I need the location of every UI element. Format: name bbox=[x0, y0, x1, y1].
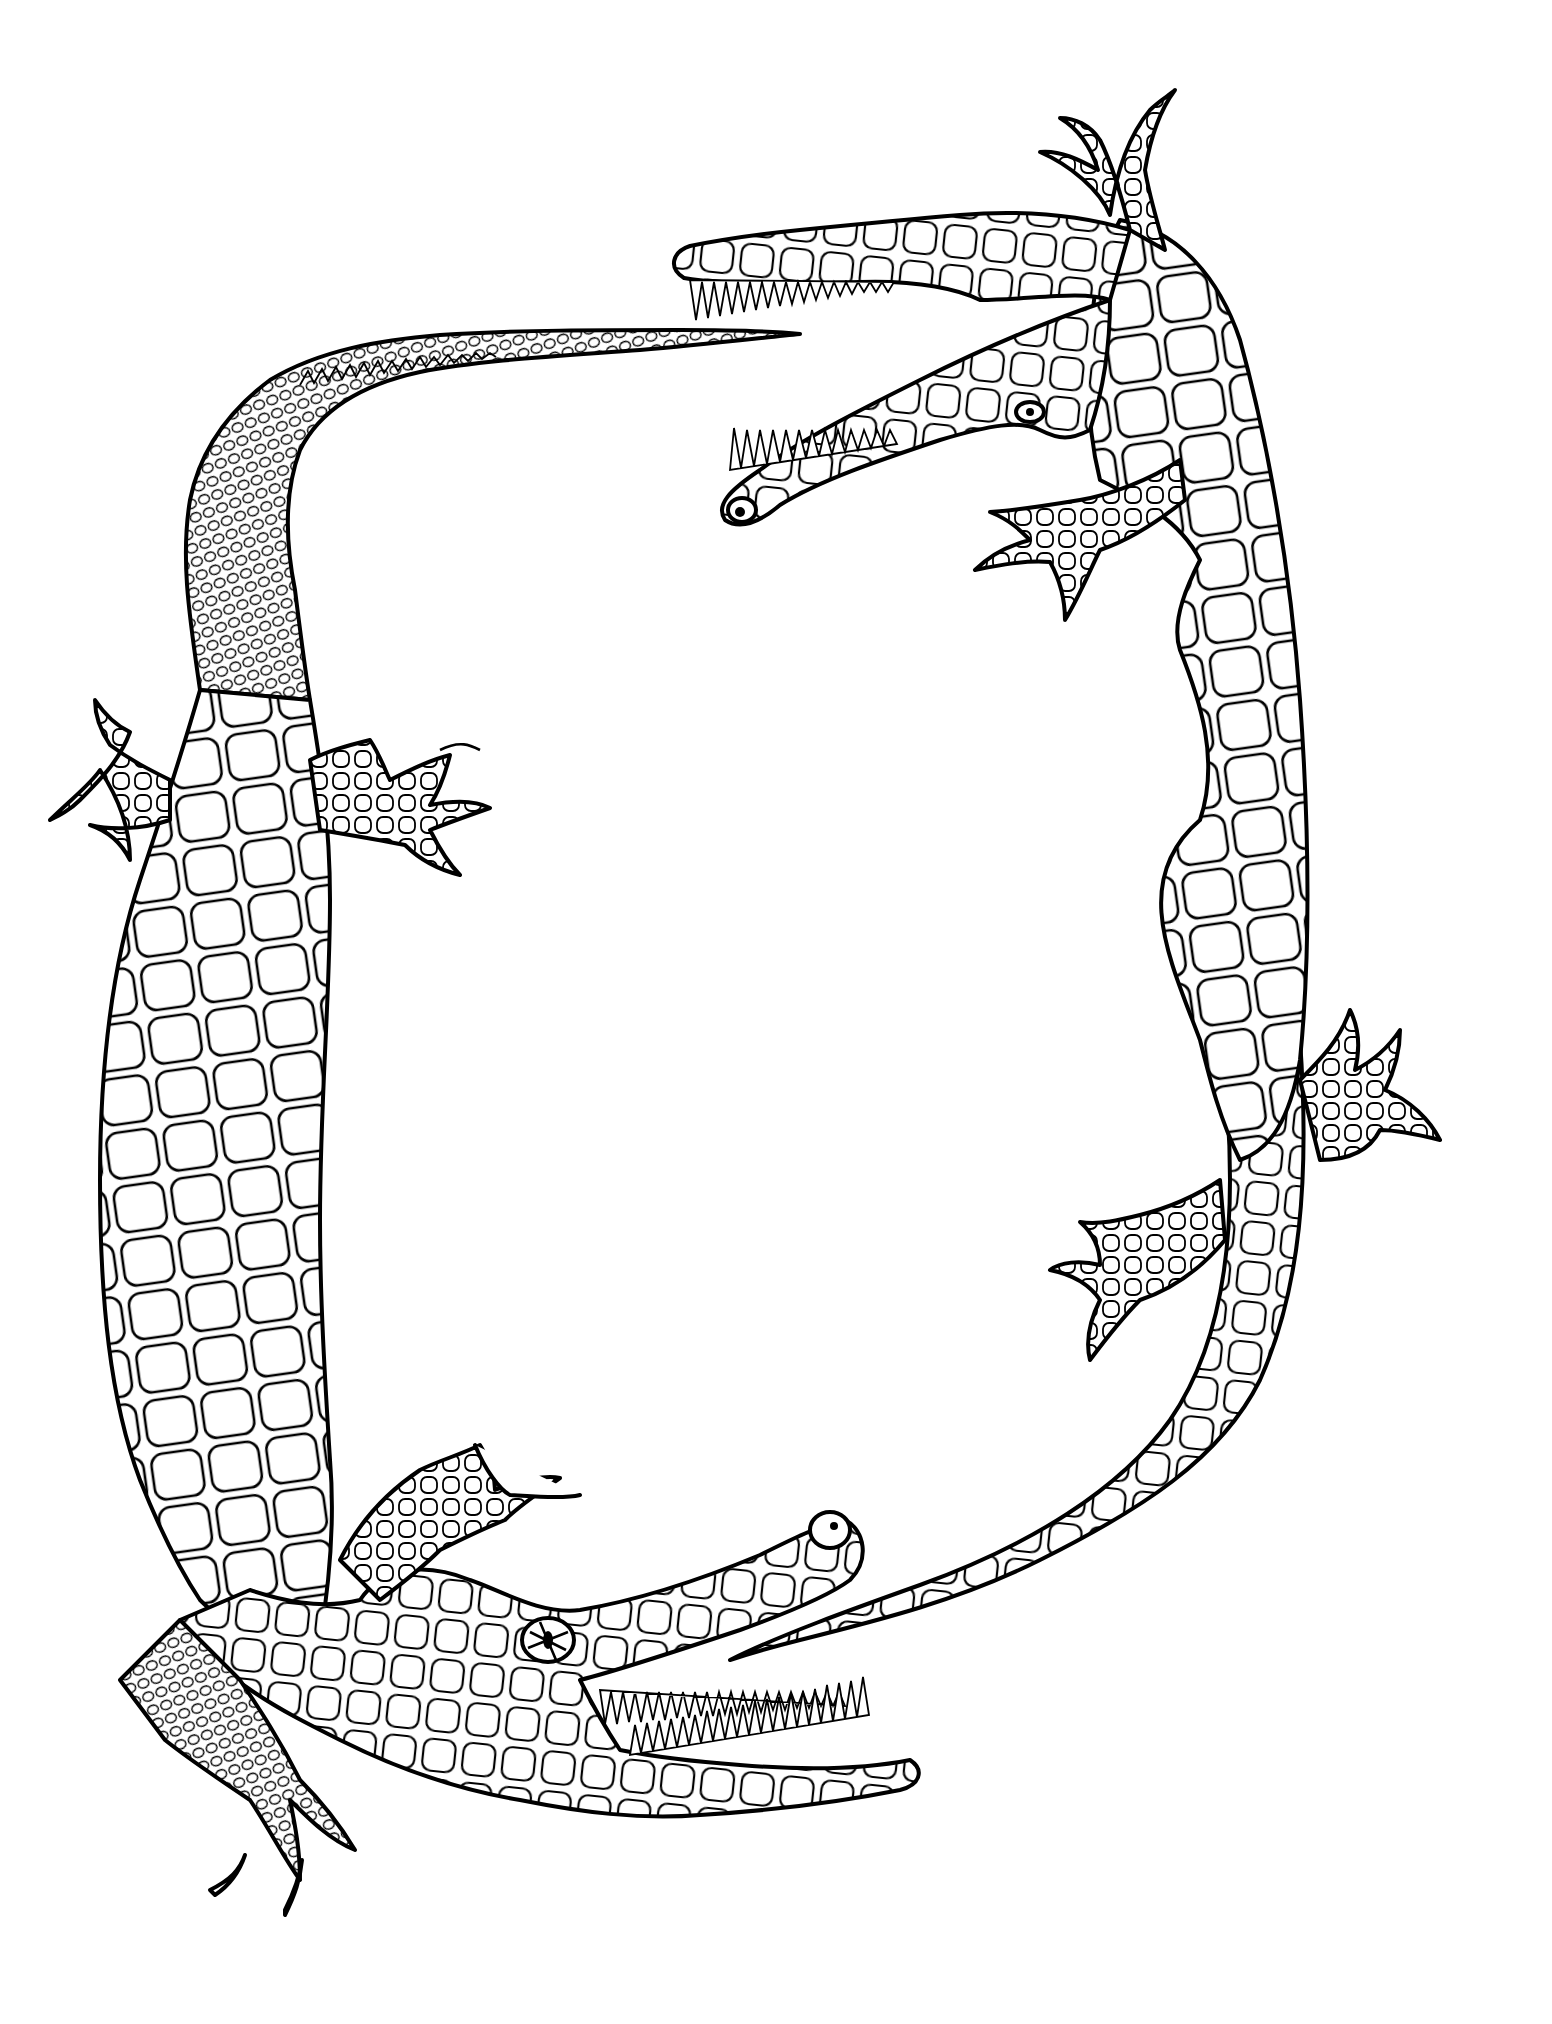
coloring-page: Black line-art coloring page of two croc… bbox=[0, 0, 1552, 2024]
crocodile-bottom-left bbox=[50, 330, 919, 1915]
crocodiles-illustration bbox=[0, 0, 1552, 2024]
upper-teeth-top-right-croc bbox=[690, 280, 894, 320]
snout-tip-bottom-left-croc bbox=[810, 1512, 850, 1548]
claw-bottom-left-croc bbox=[210, 1855, 245, 1895]
crocodile-top-right bbox=[674, 90, 1440, 1660]
